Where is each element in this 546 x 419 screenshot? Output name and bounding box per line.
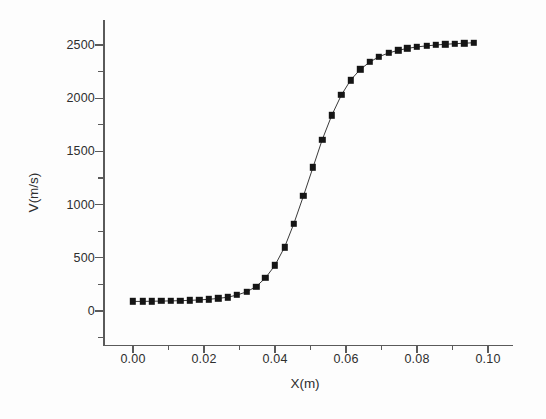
y-axis-title: V(m/s): [26, 138, 41, 248]
x-tick-label: 0.10: [475, 352, 500, 366]
data-point-marker: [338, 92, 344, 98]
data-series-line: [133, 43, 474, 302]
y-tick-major: [95, 204, 103, 205]
data-point-marker: [357, 66, 363, 72]
y-tick-label: 1000: [66, 198, 95, 212]
x-tick-minor: [452, 345, 453, 350]
data-point-marker: [187, 297, 193, 303]
data-point-marker: [243, 289, 249, 295]
data-point-marker: [404, 45, 410, 51]
y-axis-spine: [103, 20, 105, 346]
y-tick-minor: [98, 337, 103, 338]
data-point-marker: [262, 275, 268, 281]
data-point-marker: [272, 262, 278, 268]
data-point-marker: [442, 41, 448, 47]
y-tick-major: [95, 98, 103, 99]
data-point-marker: [414, 44, 420, 50]
x-tick-label: 0.08: [404, 352, 429, 366]
data-point-marker: [205, 296, 211, 302]
data-point-marker: [310, 164, 316, 170]
x-tick-minor: [310, 345, 311, 350]
x-tick-label: 0.00: [120, 352, 145, 366]
data-point-marker: [149, 298, 155, 304]
data-point-marker: [347, 77, 353, 83]
y-tick-minor: [98, 177, 103, 178]
data-point-marker: [177, 297, 183, 303]
data-point-marker: [225, 294, 231, 300]
x-tick-label: 0.06: [333, 352, 358, 366]
data-point-marker: [234, 292, 240, 298]
data-point-marker: [376, 54, 382, 60]
data-point-marker: [281, 244, 287, 250]
data-point-marker: [158, 298, 164, 304]
data-point-marker: [168, 298, 174, 304]
y-tick-major: [95, 257, 103, 258]
x-tick-minor: [381, 345, 382, 350]
data-point-marker: [329, 112, 335, 118]
data-point-marker: [452, 41, 458, 47]
y-tick-minor: [98, 231, 103, 232]
data-point-marker: [319, 136, 325, 142]
y-tick-label: 1500: [66, 144, 95, 158]
data-point-marker: [196, 297, 202, 303]
data-point-marker: [461, 40, 467, 46]
chart-figure: 05001000150020002500 0.000.020.040.060.0…: [0, 0, 546, 419]
data-point-marker: [291, 221, 297, 227]
x-tick-minor: [168, 345, 169, 350]
y-tick-minor: [98, 124, 103, 125]
y-tick-major: [95, 310, 103, 311]
y-tick-label: 0: [88, 304, 95, 318]
y-tick-major: [95, 44, 103, 45]
x-tick-minor: [239, 345, 240, 350]
data-point-marker: [253, 283, 259, 289]
x-tick-label: 0.04: [262, 352, 287, 366]
data-point-marker: [367, 59, 373, 65]
y-tick-label: 2500: [66, 38, 95, 52]
data-point-marker: [215, 295, 221, 301]
y-tick-label: 500: [74, 251, 95, 265]
x-tick-label: 0.02: [191, 352, 216, 366]
data-point-marker: [395, 47, 401, 53]
data-point-marker: [423, 43, 429, 49]
data-point-marker: [433, 42, 439, 48]
data-point-marker: [471, 40, 477, 46]
y-tick-label: 2000: [66, 91, 95, 105]
x-axis-title: X(m): [255, 376, 355, 391]
y-tick-major: [95, 151, 103, 152]
data-point-marker: [130, 298, 136, 304]
data-point-marker: [139, 298, 145, 304]
data-point-marker: [300, 193, 306, 199]
y-tick-minor: [98, 284, 103, 285]
data-point-marker: [385, 50, 391, 56]
y-tick-minor: [98, 71, 103, 72]
